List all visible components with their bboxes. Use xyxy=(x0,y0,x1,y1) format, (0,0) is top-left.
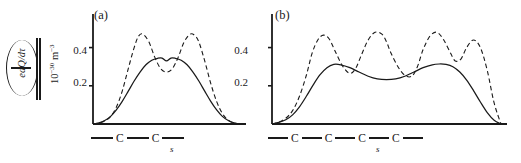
chain-bond xyxy=(91,137,113,138)
series-solid xyxy=(93,58,240,124)
panel-b: (b) 0.4 0.2 CCCC s xyxy=(243,0,521,163)
panel-a-chain-annotation: CC xyxy=(88,132,187,144)
units-symbol-exponent: −3 xyxy=(48,44,56,51)
units-exponent: −30 xyxy=(48,63,56,74)
chain-bond xyxy=(162,137,184,138)
unit-divider-2 xyxy=(39,38,41,100)
series-solid xyxy=(272,64,501,124)
y-axis-denominator-text: e xyxy=(15,73,26,78)
chain-atom-c: C xyxy=(152,132,160,144)
y-axis-label: dQ/dτ e 10−30 m−3 xyxy=(2,24,62,108)
chain-bond xyxy=(403,137,423,138)
y-axis-numerator-text: dQ/dτ xyxy=(16,48,27,73)
y-axis-units-text: 10−30 m−3 xyxy=(48,33,61,95)
y-axis-label-fraction: dQ/dτ e xyxy=(11,44,31,92)
chain-atom-c: C xyxy=(325,132,333,144)
chain-bond xyxy=(335,137,355,138)
y-axis-units: 10−30 m−3 xyxy=(35,36,59,102)
panel-b-x-axis-symbol: s xyxy=(376,144,380,154)
chain-bond xyxy=(127,137,149,138)
units-mantissa: 10 xyxy=(49,74,60,85)
chain-atom-c: C xyxy=(392,132,400,144)
unit-divider-1 xyxy=(36,38,38,100)
panel-b-chain-annotation: CCCC xyxy=(265,132,426,144)
series-dashed xyxy=(272,32,501,124)
chain-atom-c: C xyxy=(291,132,299,144)
panel-b-plot xyxy=(243,0,521,140)
y-axis-label-numerator: dQ/dτ xyxy=(9,55,34,66)
chain-atom-c: C xyxy=(116,132,124,144)
panel-a-x-axis-symbol: s xyxy=(170,144,174,154)
series-dashed xyxy=(93,34,240,124)
units-symbol: m xyxy=(49,52,60,60)
chain-bond xyxy=(302,137,322,138)
figure-root: dQ/dτ e 10−30 m−3 (a) 0.4 0.2 CC s (b) 0… xyxy=(0,0,521,163)
chain-bond xyxy=(268,137,288,138)
chain-atom-c: C xyxy=(358,132,366,144)
chain-bond xyxy=(369,137,389,138)
panel-a-plot xyxy=(62,0,257,140)
